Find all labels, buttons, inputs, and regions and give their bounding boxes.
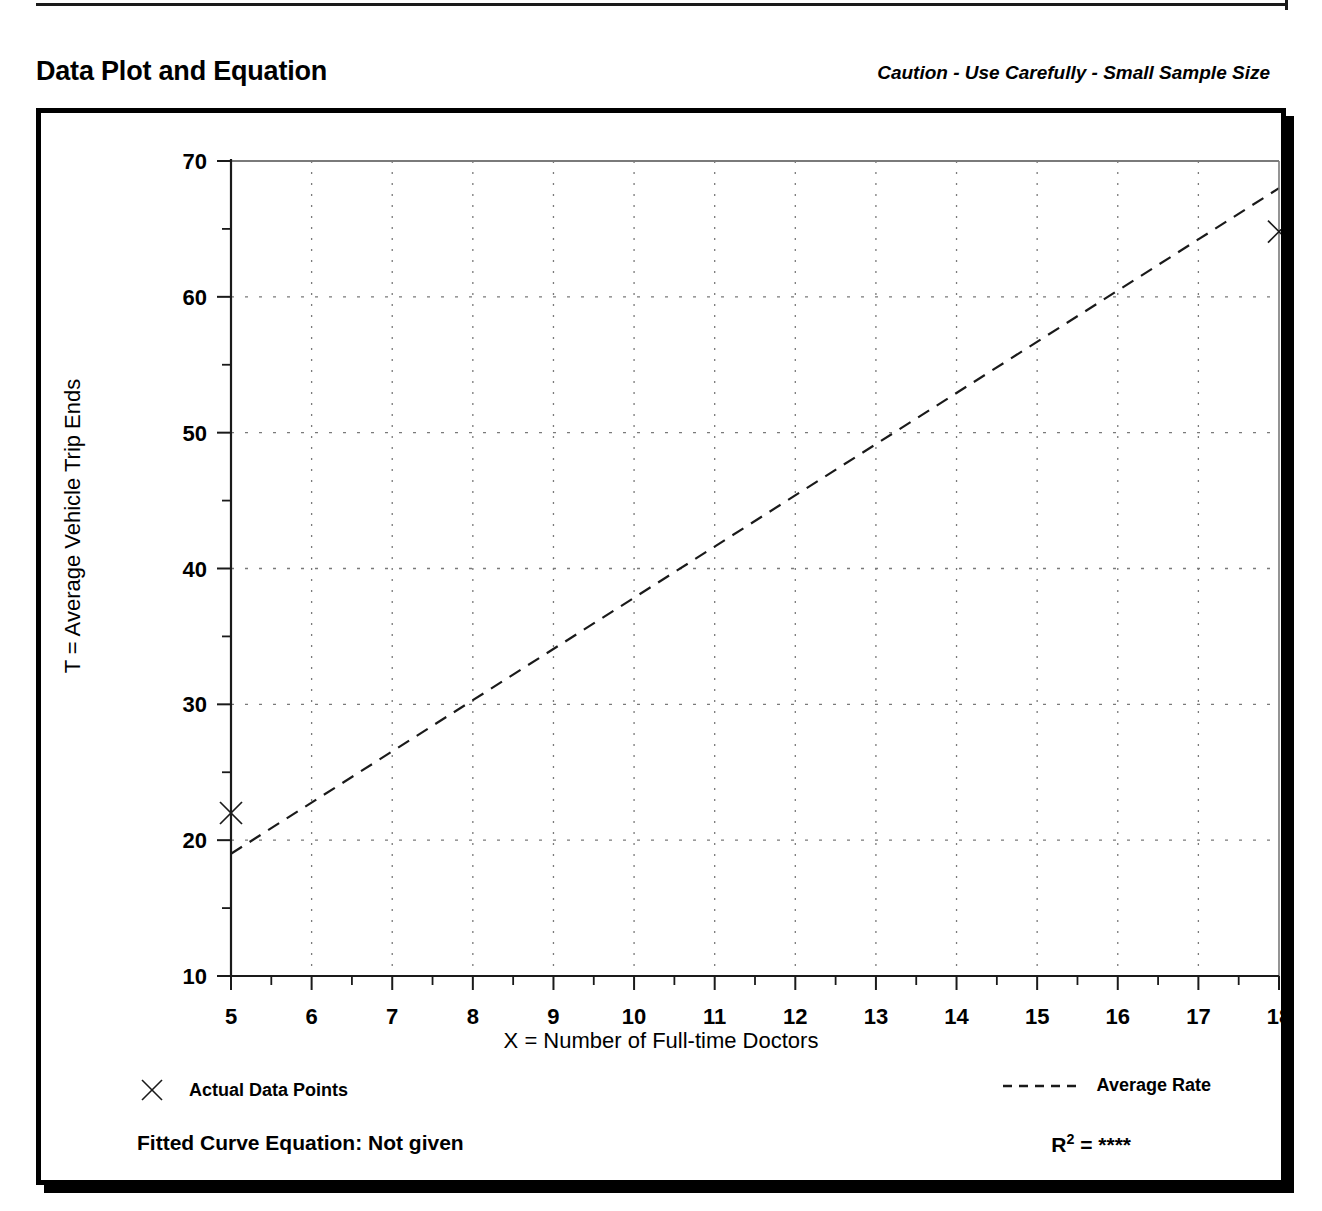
y-axis-tick-label: 20 [183, 828, 207, 853]
page-root: Data Plot and Equation Caution - Use Car… [0, 0, 1322, 1211]
x-axis-tick-label: 18 [1267, 1004, 1281, 1029]
panel-shadow-right [1286, 116, 1294, 1193]
panel-shadow-bottom [44, 1185, 1294, 1193]
y-axis-tick-label: 40 [183, 557, 207, 582]
y-axis-title: T = Average Vehicle Trip Ends [60, 276, 86, 776]
chart-footer: Fitted Curve Equation: Not given R2 = **… [41, 1131, 1281, 1171]
r-squared-exponent: 2 [1066, 1131, 1074, 1147]
r-squared-result: = **** [1080, 1133, 1131, 1156]
y-axis-tick-label: 10 [183, 964, 207, 989]
legend-label-data-points: Actual Data Points [189, 1080, 348, 1101]
x-axis-tick-label: 9 [547, 1004, 559, 1029]
x-marker-icon [137, 1075, 167, 1105]
x-axis-tick-label: 13 [864, 1004, 888, 1029]
x-axis-tick-label: 15 [1025, 1004, 1049, 1029]
legend-entry-data-points: Actual Data Points [137, 1075, 348, 1105]
page-top-rule-cap [1285, 0, 1288, 10]
scatter-plot-svg: 1020304050607056789101112131415161718 [41, 113, 1281, 1033]
dashed-line-icon [1001, 1079, 1079, 1093]
x-axis-tick-label: 5 [225, 1004, 237, 1029]
x-axis-tick-label: 10 [622, 1004, 646, 1029]
x-axis-tick-label: 17 [1186, 1004, 1210, 1029]
y-axis-tick-label: 70 [183, 149, 207, 174]
r-squared-prefix: R [1051, 1133, 1066, 1156]
y-axis-tick-label: 30 [183, 692, 207, 717]
x-axis-tick-label: 16 [1106, 1004, 1130, 1029]
caution-note: Caution - Use Carefully - Small Sample S… [877, 62, 1270, 84]
x-axis-tick-label: 6 [305, 1004, 317, 1029]
fitted-curve-equation: Fitted Curve Equation: Not given [137, 1131, 464, 1155]
x-axis-tick-label: 8 [467, 1004, 479, 1029]
chart-panel: 1020304050607056789101112131415161718 T … [36, 108, 1286, 1185]
x-axis-tick-label: 14 [944, 1004, 969, 1029]
page-top-rule [36, 3, 1288, 6]
page-title: Data Plot and Equation [36, 56, 327, 87]
y-axis-tick-label: 50 [183, 421, 207, 446]
plot-area: 1020304050607056789101112131415161718 T … [41, 113, 1281, 1180]
legend-entry-average-rate: Average Rate [1001, 1075, 1211, 1096]
series-line-average-rate [231, 188, 1279, 854]
y-axis-tick-label: 60 [183, 285, 207, 310]
legend-label-average-rate: Average Rate [1097, 1075, 1211, 1096]
x-axis-tick-label: 7 [386, 1004, 398, 1029]
x-axis-title: X = Number of Full-time Doctors [41, 1028, 1281, 1054]
legend: Actual Data Points Average Rate [41, 1075, 1281, 1115]
x-axis-tick-label: 11 [703, 1004, 726, 1029]
header: Data Plot and Equation Caution - Use Car… [0, 56, 1322, 98]
r-squared-value: R2 = **** [1051, 1131, 1131, 1157]
x-axis-tick-label: 12 [783, 1004, 807, 1029]
